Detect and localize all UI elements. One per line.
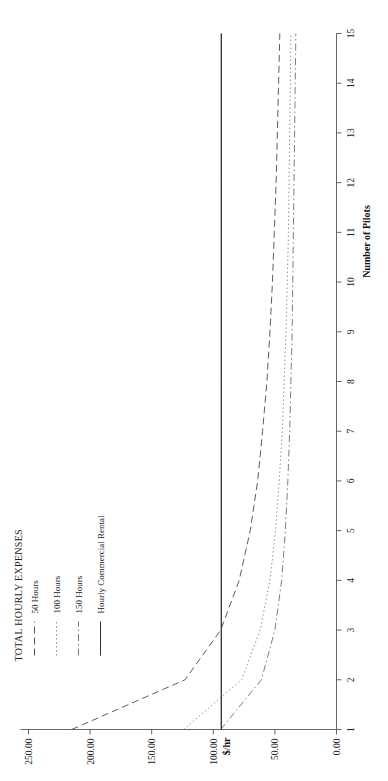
x-tick-label: 11 [345, 227, 355, 236]
legend-swatches [34, 621, 100, 655]
plot-axes [20, 33, 341, 734]
y-tick-label: 250.00 [23, 738, 33, 764]
y-tick-label: 150.00 [146, 738, 156, 764]
y-tick-label: 0.00 [331, 738, 341, 755]
x-tick-label: 14 [345, 78, 355, 88]
x-tick-label: 15 [345, 28, 355, 38]
x-tick-label: 7 [345, 428, 355, 433]
x-tick-label: 9 [345, 329, 355, 334]
x-tick-label: 5 [345, 528, 355, 533]
x-tick-label: 6 [345, 478, 355, 483]
legend-title: TOTAL HOURLY EXPENSES [12, 529, 23, 661]
chart-page: 1234567891011121314150.0050.00100.00150.… [0, 0, 388, 781]
chart-figure: 1234567891011121314150.0050.00100.00150.… [0, 0, 388, 781]
x-tick-label: 8 [345, 379, 355, 384]
x-tick-label: 12 [345, 177, 355, 187]
x-tick-label: 3 [345, 627, 355, 632]
y-axis-title: $/hr [221, 737, 232, 755]
series-line [183, 33, 290, 729]
series-line [220, 33, 295, 729]
series-line [71, 33, 279, 729]
x-axis-title: Number of Pilots [360, 205, 371, 278]
y-tick-label: 200.00 [85, 738, 95, 764]
x-tick-label: 2 [345, 677, 355, 682]
legend-label-150-hours: 150 Hours [73, 575, 83, 613]
plot-canvas [0, 0, 388, 781]
legend-label-100-hours: 100 Hours [51, 575, 61, 613]
x-tick-label: 1 [345, 727, 355, 732]
x-tick-label: 13 [345, 128, 355, 138]
legend-label-50-hours: 50 Hours [29, 580, 39, 613]
x-tick-label: 4 [345, 577, 355, 582]
legend-label-hourly-commercial-rental: Hourly Commercial Rental [95, 515, 105, 613]
plot-series [71, 33, 295, 729]
y-tick-label: 100.00 [208, 738, 218, 764]
y-tick-label: 50.00 [269, 738, 279, 759]
x-tick-label: 10 [345, 277, 355, 287]
